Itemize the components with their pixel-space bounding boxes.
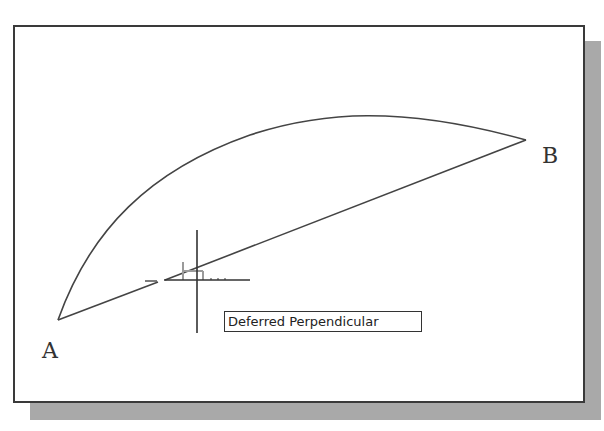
line-a-segment[interactable] — [58, 282, 158, 320]
point-b-label: B — [542, 145, 558, 167]
snap-tooltip: Deferred Perpendicular — [224, 311, 422, 332]
arc-entity[interactable] — [58, 116, 526, 320]
point-a-label: A — [42, 340, 58, 362]
rubber-band-line — [165, 140, 526, 280]
drawing-canvas[interactable] — [0, 0, 604, 431]
